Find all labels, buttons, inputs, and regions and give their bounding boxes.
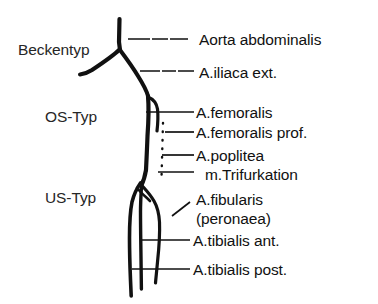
occlusion-dotted-segment (162, 123, 164, 178)
annotation-m-trifurkation: m.Trifurkation (205, 167, 298, 183)
type-label-beckentyp: Beckentyp (18, 42, 89, 58)
femoralis-vessel (146, 96, 149, 170)
tibialis-posterior-vessel (130, 183, 141, 296)
annotation-a-poplitea: A.poplitea (196, 148, 264, 164)
iliaca-right-vessel (120, 50, 148, 96)
annotation-a-fibularis: A.fibularis (196, 192, 263, 208)
type-label-os-typ: OS-Typ (45, 109, 97, 125)
annotation-a-femoralis: A.femoralis (196, 105, 272, 121)
aorta-abdominalis-vessel (119, 19, 120, 50)
annotation-a-tibialis-post: A.tibialis post. (193, 262, 287, 278)
annotation-a-peronaea: (peronaea) (196, 211, 271, 227)
annotation-a-femoralis-prof: A.femoralis prof. (196, 125, 307, 141)
annotation-aorta-abdominalis: Aorta abdominalis (199, 32, 321, 48)
annotation-a-tibialis-ant: A.tibialis ant. (193, 233, 279, 249)
type-label-us-typ: US-Typ (45, 190, 96, 206)
arterial-occlusion-diagram: Beckentyp OS-Typ US-Typ Aorta abdominali… (0, 0, 378, 304)
fibularis-vessel (141, 186, 142, 289)
annotation-a-iliaca-ext: A.iliaca ext. (199, 65, 277, 81)
leader-a-fibularis (172, 202, 190, 216)
